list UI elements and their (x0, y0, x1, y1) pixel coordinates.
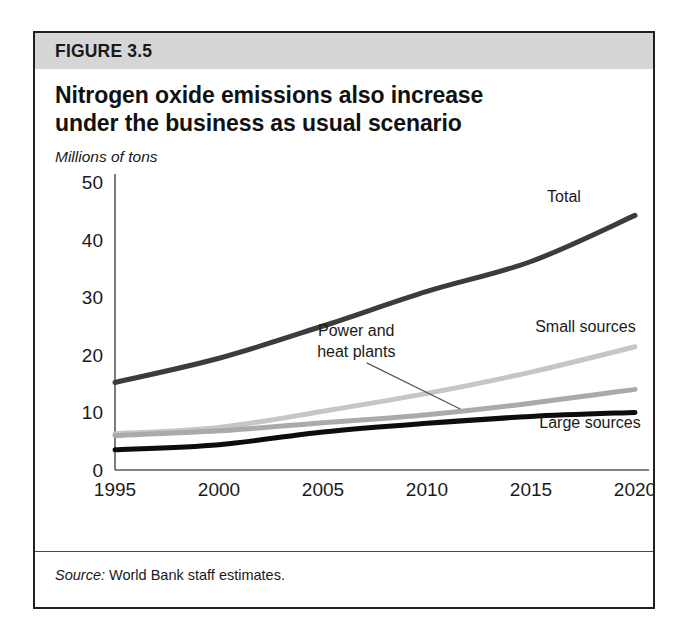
x-tick-label: 2020 (614, 479, 653, 500)
series-label: Total (547, 188, 581, 205)
figure-card: FIGURE 3.5 Nitrogen oxide emissions also… (33, 31, 655, 609)
x-tick-label: 2005 (302, 479, 344, 500)
y-axis-units-label: Millions of tons (35, 137, 653, 166)
y-tick-label: 50 (82, 172, 103, 193)
source-divider (35, 551, 653, 552)
x-tick-label: 1995 (94, 479, 136, 500)
x-tick-label: 2000 (198, 479, 240, 500)
y-tick-label: 20 (82, 345, 103, 366)
x-tick-label: 2015 (510, 479, 552, 500)
x-tick-label: 2010 (406, 479, 448, 500)
y-tick-label: 40 (82, 230, 103, 251)
figure-title-line-1: Nitrogen oxide emissions also increase (55, 81, 633, 109)
figure-number-band: FIGURE 3.5 (35, 33, 653, 69)
figure-title-line-2: under the business as usual scenario (55, 109, 633, 137)
series-label: Small sources (535, 318, 635, 335)
source-note: Source: World Bank staff estimates. (55, 567, 285, 583)
series-label: Large sources (539, 414, 640, 431)
figure-title: Nitrogen oxide emissions also increase u… (35, 69, 653, 137)
source-value: World Bank staff estimates. (105, 567, 285, 583)
x-axis-tick-labels: 199520002005201020152020 (94, 479, 653, 500)
y-tick-label: 0 (92, 460, 103, 481)
y-tick-label: 30 (82, 287, 103, 308)
y-tick-label: 10 (82, 402, 103, 423)
series-label: Power andheat plants (317, 322, 395, 360)
chart-plot-area: 01020304050 199520002005201020152020 Tot… (35, 168, 653, 520)
y-axis-tick-labels: 01020304050 (82, 172, 103, 481)
figure-number-label: FIGURE 3.5 (55, 41, 152, 62)
source-label: Source: (55, 567, 105, 583)
line-chart-svg: 01020304050 199520002005201020152020 Tot… (35, 168, 653, 520)
